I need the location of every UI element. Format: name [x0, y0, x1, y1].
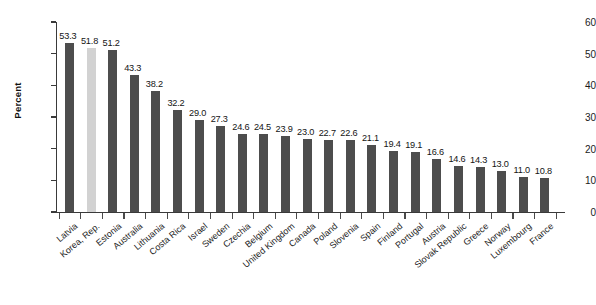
bar — [151, 91, 160, 212]
bar — [87, 48, 96, 212]
bar — [389, 151, 398, 212]
x-tick-mark — [59, 213, 60, 219]
bar — [259, 134, 268, 212]
bar — [281, 136, 290, 212]
bar-value-label: 19.4 — [384, 139, 401, 149]
bar — [303, 139, 312, 212]
bar-value-label: 29.0 — [189, 108, 206, 118]
bar-value-label: 22.6 — [340, 128, 357, 138]
bar-value-label: 19.1 — [405, 140, 422, 150]
bar-value-label: 32.2 — [167, 98, 184, 108]
bar-value-label: 13.0 — [492, 159, 509, 169]
bar-value-label: 27.3 — [211, 114, 228, 124]
bar-value-label: 23.9 — [275, 124, 292, 134]
bar — [238, 134, 247, 212]
bar-value-label: 14.3 — [470, 155, 487, 165]
plot-area — [56, 22, 565, 212]
y-axis-title: Percent — [12, 66, 23, 136]
bar-value-label: 24.6 — [232, 122, 249, 132]
bar-value-label: 11.0 — [514, 165, 530, 175]
bar-value-label: 22.7 — [319, 128, 336, 138]
bar-value-label: 10.8 — [535, 166, 552, 176]
bar-value-label: 14.6 — [448, 154, 465, 164]
bar-value-label: 51.2 — [103, 38, 120, 48]
bar-value-label: 21.1 — [362, 133, 379, 143]
bar-value-label: 24.5 — [254, 122, 271, 132]
bar-value-label: 51.8 — [81, 36, 98, 46]
bar-value-label: 38.2 — [146, 79, 163, 89]
bar-value-label: 53.3 — [59, 31, 76, 41]
bar — [195, 120, 204, 212]
bar-value-label: 43.3 — [124, 63, 141, 73]
bar — [65, 43, 74, 212]
bar — [346, 140, 355, 212]
bar — [173, 110, 182, 212]
bar — [108, 50, 117, 212]
bar-chart: Percent 0102030405060 53.351.851.243.338… — [0, 0, 596, 305]
bar-value-label: 23.0 — [297, 127, 314, 137]
bar-value-label: 16.6 — [427, 147, 444, 157]
